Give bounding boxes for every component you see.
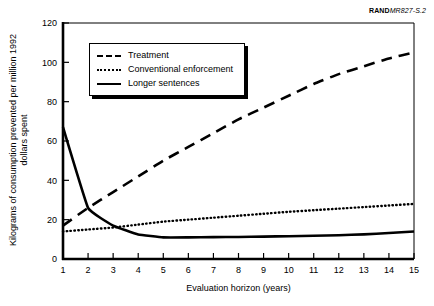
x-tick-label: 6: [186, 265, 191, 275]
x-tick-label: 2: [86, 265, 91, 275]
legend-item-longer-sentences: Longer sentences: [97, 76, 237, 90]
legend-label-conventional-enforcement: Conventional enforcement: [128, 64, 233, 74]
legend-item-conventional-enforcement: Conventional enforcement: [97, 62, 237, 76]
x-tick-label: 8: [236, 265, 241, 275]
x-tick-label: 3: [111, 265, 116, 275]
y-tick-label: 60: [47, 136, 57, 146]
y-tick-label: 100: [42, 58, 57, 68]
y-tick-label: 20: [47, 215, 57, 225]
chart-legend: Treatment Conventional enforcement Longe…: [89, 43, 245, 96]
y-tick-label: 80: [47, 97, 57, 107]
y-tick-label: 0: [52, 254, 57, 264]
legend-label-longer-sentences: Longer sentences: [128, 78, 200, 88]
y-tick-label: 120: [42, 18, 57, 28]
legend-item-treatment: Treatment: [97, 48, 237, 62]
y-axis-ticks: 020406080100120: [42, 18, 69, 264]
x-tick-label: 15: [409, 265, 419, 275]
y-tick-label: 40: [47, 176, 57, 186]
chart-figure: RANDMR827-S.2 Kilograms of consumption p…: [0, 0, 434, 306]
x-tick-label: 7: [211, 265, 216, 275]
x-axis-ticks: 123456789101112131415: [60, 253, 419, 275]
legend-swatch-dotted-icon: [97, 64, 121, 74]
legend-label-treatment: Treatment: [128, 50, 169, 60]
x-axis-title: Evaluation horizon (years): [63, 283, 414, 293]
x-tick-label: 14: [384, 265, 394, 275]
series-line-longer-sentences: [63, 127, 414, 237]
legend-swatch-solid-icon: [97, 78, 121, 88]
x-tick-label: 13: [359, 265, 369, 275]
x-tick-label: 4: [136, 265, 141, 275]
x-tick-label: 12: [334, 265, 344, 275]
x-tick-label: 10: [284, 265, 294, 275]
x-tick-label: 11: [309, 265, 318, 275]
x-tick-label: 5: [161, 265, 166, 275]
x-tick-label: 9: [261, 265, 266, 275]
legend-swatch-dashed-icon: [97, 50, 121, 60]
x-tick-label: 1: [60, 265, 65, 275]
